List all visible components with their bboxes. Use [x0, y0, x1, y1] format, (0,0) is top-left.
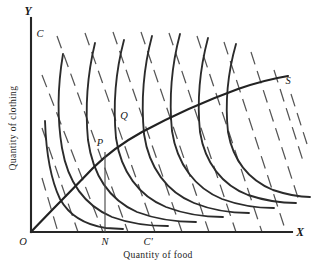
label-c-prime: C' [143, 236, 153, 247]
origin-letter: O [19, 236, 27, 247]
indifference-curve-group [45, 34, 310, 229]
indifference-map-plot: Y X O C C' N P Q S Quantity of food Quan… [0, 0, 315, 269]
price-line [57, 36, 128, 232]
x-axis-letter: X [295, 226, 304, 238]
x-axis-caption: Quantity of food [123, 249, 193, 260]
price-line [197, 36, 262, 232]
y-axis-caption: Quantity of clothing [7, 86, 18, 171]
label-n: N [100, 236, 109, 247]
indifference-curve-8 [227, 44, 310, 197]
label-p: P [96, 137, 104, 148]
label-q: Q [120, 110, 128, 121]
price-line [291, 94, 307, 144]
indifference-curve-7 [199, 38, 296, 203]
price-line [141, 32, 209, 232]
label-s: S [285, 75, 291, 86]
indifference-curve-1 [45, 121, 123, 229]
label-c-top: C [36, 28, 44, 39]
figure-container: Y X O C C' N P Q S Quantity of food Quan… [0, 0, 315, 269]
y-axis-letter: Y [24, 5, 32, 17]
